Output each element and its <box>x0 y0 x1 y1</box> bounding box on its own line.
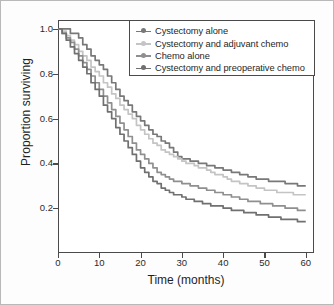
x-tick-label: 50 <box>252 257 276 268</box>
x-axis-title: Time (months) <box>58 273 314 287</box>
y-tick-mark <box>53 29 58 30</box>
y-tick-mark <box>53 208 58 209</box>
legend-marker-icon <box>136 51 151 60</box>
x-tick-mark <box>141 253 142 258</box>
x-tick-mark <box>306 253 307 258</box>
x-tick-label: 0 <box>46 257 70 268</box>
legend-label: Cystectomy alone <box>155 26 228 36</box>
legend-label: Cystectomy and adjuvant chemo <box>155 39 288 49</box>
x-tick-label: 40 <box>211 257 235 268</box>
y-tick-mark <box>53 119 58 120</box>
chart-legend: Cystectomy aloneCystectomy and adjuvant … <box>129 20 315 76</box>
legend-marker-icon <box>136 39 151 48</box>
legend-item-4[interactable]: Cystectomy and preoperative chemo <box>136 62 309 74</box>
y-tick-mark <box>53 163 58 164</box>
x-tick-label: 30 <box>170 257 194 268</box>
y-axis-title: Proportion surviving <box>19 27 33 197</box>
y-tick-mark <box>53 74 58 75</box>
legend-label: Cystectomy and preoperative chemo <box>155 63 305 73</box>
legend-label: Chemo alone <box>155 51 210 61</box>
x-tick-label: 60 <box>294 257 318 268</box>
x-tick-mark <box>99 253 100 258</box>
legend-marker-icon <box>136 27 151 36</box>
legend-item-3[interactable]: Chemo alone <box>136 50 309 62</box>
x-tick-mark <box>58 253 59 258</box>
x-tick-mark <box>182 253 183 258</box>
legend-item-1[interactable]: Cystectomy alone <box>136 25 309 37</box>
x-tick-mark <box>223 253 224 258</box>
x-tick-mark <box>264 253 265 258</box>
figure-container: 0.20.40.60.81.0 0102030405060 Proportion… <box>0 0 334 305</box>
x-tick-label: 10 <box>87 257 111 268</box>
legend-marker-icon <box>136 64 151 73</box>
x-tick-label: 20 <box>129 257 153 268</box>
legend-item-2[interactable]: Cystectomy and adjuvant chemo <box>136 37 309 49</box>
